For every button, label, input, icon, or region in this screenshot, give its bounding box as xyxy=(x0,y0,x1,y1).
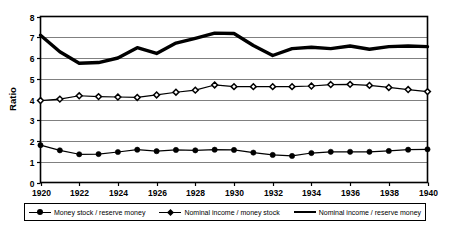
x-tick-label-1932: 1932 xyxy=(264,188,283,198)
x-tick-label-1928: 1928 xyxy=(186,188,205,198)
data-point-0-10 xyxy=(231,147,236,152)
y-tick-label-8: 8 xyxy=(30,13,35,23)
data-point-0-0 xyxy=(38,143,43,148)
legend-marker-diamond-icon xyxy=(159,208,181,217)
data-point-1-20 xyxy=(425,89,431,95)
x-tick-label-1924: 1924 xyxy=(109,188,128,198)
data-point-0-3 xyxy=(96,151,101,156)
data-point-1-7 xyxy=(173,89,179,95)
data-point-0-4 xyxy=(115,149,120,154)
y-tick-label-3: 3 xyxy=(30,116,35,126)
chart-legend: Money stock / reserve money Nominal inco… xyxy=(24,203,426,221)
data-point-0-8 xyxy=(193,148,198,153)
data-point-0-15 xyxy=(328,149,333,154)
data-point-0-13 xyxy=(289,153,294,158)
legend-label-0: Money stock / reserve money xyxy=(54,209,145,216)
data-point-0-18 xyxy=(386,148,391,153)
data-point-1-10 xyxy=(231,84,237,90)
data-point-1-12 xyxy=(270,84,276,90)
data-point-0-11 xyxy=(251,150,256,155)
data-point-1-8 xyxy=(192,87,198,93)
data-point-1-4 xyxy=(115,94,121,100)
data-point-1-16 xyxy=(347,81,353,87)
data-point-0-7 xyxy=(173,147,178,152)
data-point-0-6 xyxy=(154,149,159,154)
legend-item-nominal-income-money-stock[interactable]: Nominal income / money stock xyxy=(159,208,279,217)
x-tick-label-1940: 1940 xyxy=(419,188,438,198)
series-0 xyxy=(38,143,430,159)
y-axis-title: Ratio xyxy=(7,87,18,111)
data-point-0-19 xyxy=(406,147,411,152)
data-point-0-1 xyxy=(57,148,62,153)
data-series-group xyxy=(38,33,431,158)
legend-marker-circle-icon xyxy=(29,208,51,217)
x-tick-label-1936: 1936 xyxy=(341,188,360,198)
data-point-1-6 xyxy=(154,92,160,98)
x-tick-label-1920: 1920 xyxy=(32,188,51,198)
data-point-1-14 xyxy=(309,83,315,89)
x-tick-label-1922: 1922 xyxy=(70,188,89,198)
data-point-1-2 xyxy=(76,93,82,99)
data-point-1-3 xyxy=(96,94,102,100)
data-point-1-11 xyxy=(250,84,256,90)
x-tick-label-1938: 1938 xyxy=(380,188,399,198)
data-point-1-15 xyxy=(328,82,334,88)
x-tick-label-1934: 1934 xyxy=(302,188,321,198)
data-point-0-16 xyxy=(348,149,353,154)
data-point-0-14 xyxy=(309,150,314,155)
data-point-1-19 xyxy=(405,87,411,93)
x-axis-tick-labels: 1920192219241926192819301932193419361938… xyxy=(32,188,438,198)
data-point-1-17 xyxy=(367,82,373,88)
data-point-0-5 xyxy=(135,147,140,152)
chart-container: 012345678 192019221924192619281930193219… xyxy=(0,0,452,232)
legend-item-money-stock-reserve-money[interactable]: Money stock / reserve money xyxy=(29,208,145,217)
legend-item-nominal-income-reserve-money[interactable]: Nominal income / reserve money xyxy=(294,208,421,217)
y-tick-label-5: 5 xyxy=(30,75,35,85)
x-tick-label-1930: 1930 xyxy=(225,188,244,198)
data-point-0-9 xyxy=(212,147,217,152)
y-tick-label-6: 6 xyxy=(30,54,35,64)
data-point-1-0 xyxy=(38,98,44,104)
y-axis-tick-labels: 012345678 xyxy=(30,13,35,189)
y-tick-label-2: 2 xyxy=(30,137,35,147)
y-tick-label-7: 7 xyxy=(30,33,35,43)
data-point-1-13 xyxy=(289,84,295,90)
x-tick-label-1926: 1926 xyxy=(148,188,167,198)
data-point-1-5 xyxy=(134,95,140,101)
legend-marker-thick-line-icon xyxy=(294,208,316,217)
y-tick-label-4: 4 xyxy=(30,96,35,106)
y-tick-label-1: 1 xyxy=(30,158,35,168)
legend-label-1: Nominal income / money stock xyxy=(184,209,279,216)
data-point-0-17 xyxy=(367,149,372,154)
legend-label-2: Nominal income / reserve money xyxy=(319,209,421,216)
data-point-1-18 xyxy=(386,85,392,91)
data-point-1-1 xyxy=(57,96,63,102)
data-point-0-12 xyxy=(270,152,275,157)
data-point-0-20 xyxy=(425,147,430,152)
data-point-0-2 xyxy=(77,152,82,157)
line-chart-svg: 012345678 192019221924192619281930193219… xyxy=(0,0,452,200)
plot-area-wrapper: 012345678 192019221924192619281930193219… xyxy=(0,0,452,200)
data-point-1-9 xyxy=(212,82,218,88)
